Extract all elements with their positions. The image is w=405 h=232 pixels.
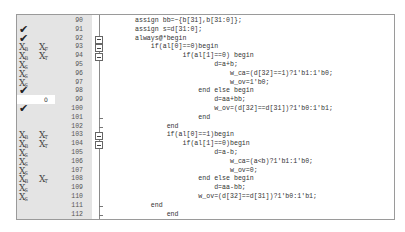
line-number: 111 bbox=[63, 202, 83, 211]
code-text[interactable]: end bbox=[135, 211, 179, 220]
line-number: 107 bbox=[63, 167, 83, 176]
fold-end-marker bbox=[99, 118, 103, 119]
line-number: 94 bbox=[63, 52, 83, 61]
code-text[interactable]: w_ov=(d[32]==d[31])?1'b0:1'b1; bbox=[135, 105, 333, 114]
hit-count-value: 0 bbox=[44, 95, 48, 104]
code-line[interactable]: XS110 w_ov=(d[32]==d[31])?1'b0:1'b1; bbox=[17, 193, 394, 202]
line-number: 102 bbox=[63, 123, 83, 132]
code-text[interactable]: end bbox=[135, 123, 179, 132]
code-line[interactable]: 101 end bbox=[17, 114, 394, 123]
code-text[interactable]: d=aa-bb; bbox=[135, 184, 246, 193]
fold-end-marker bbox=[99, 206, 103, 207]
code-line[interactable]: 099 d=aa+bb; bbox=[17, 96, 394, 105]
code-line[interactable]: XS107 w_ov=0; bbox=[17, 167, 394, 176]
code-line[interactable]: XBXF93 if(al[0]==0)begin bbox=[17, 43, 394, 52]
line-number: 110 bbox=[63, 193, 83, 202]
fold-toggle-icon[interactable] bbox=[95, 141, 103, 149]
uncovered-branch-icon: XT bbox=[39, 51, 53, 61]
fold-toggle-icon[interactable] bbox=[95, 44, 103, 52]
code-text[interactable]: d=a-b; bbox=[135, 149, 238, 158]
line-number: 103 bbox=[63, 131, 83, 140]
line-number: 112 bbox=[63, 211, 83, 220]
line-number: 90 bbox=[63, 17, 83, 26]
fold-toggle-icon[interactable] bbox=[95, 53, 103, 61]
code-editor[interactable]: 90assign bb=~{b[31],b[31:0]};✔91assign s… bbox=[16, 14, 395, 220]
fold-toggle-icon[interactable] bbox=[95, 132, 103, 140]
code-line[interactable]: XBXT94 if(al[1]==0) begin bbox=[17, 52, 394, 61]
code-line[interactable]: 102 end bbox=[17, 123, 394, 132]
line-number: 91 bbox=[63, 26, 83, 35]
code-line[interactable]: XBXT108 end else begin bbox=[17, 175, 394, 184]
code-line[interactable]: XS95 d=a+b; bbox=[17, 61, 394, 70]
line-number: 104 bbox=[63, 140, 83, 149]
code-line[interactable]: XS96 w_ca=(d[32]==1)?1'b1:1'b0; bbox=[17, 70, 394, 79]
code-line[interactable]: ✔100 w_ov=(d[32]==d[31])?1'b0:1'b1; bbox=[17, 105, 394, 114]
fold-end-marker bbox=[99, 215, 103, 216]
line-number: 105 bbox=[63, 149, 83, 158]
code-text[interactable]: if(al[1]==0)begin bbox=[135, 140, 250, 149]
code-line[interactable]: XS97 w_ov=1'b0; bbox=[17, 79, 394, 88]
code-text[interactable]: assign s=d[31:0]; bbox=[135, 26, 202, 35]
code-text[interactable]: end bbox=[135, 202, 163, 211]
fold-toggle-icon[interactable] bbox=[95, 36, 103, 44]
code-line[interactable]: XBXT103 if(al[0]==1)begin bbox=[17, 131, 394, 140]
code-line[interactable]: XBXT104 if(al[1]==0)begin bbox=[17, 140, 394, 149]
code-text[interactable]: if(al[0]==0)begin bbox=[135, 43, 218, 52]
uncovered-branch-icon: XT bbox=[39, 139, 53, 149]
code-text[interactable]: w_ca=(a<b)?1'b1:1'b0; bbox=[135, 158, 313, 167]
code-line[interactable]: ✔92always@*begin bbox=[17, 35, 394, 44]
line-number: 101 bbox=[63, 114, 83, 123]
uncovered-branch-icon: XS bbox=[19, 192, 33, 202]
code-text[interactable]: if(al[0]==1)begin bbox=[135, 131, 234, 140]
line-number: 98 bbox=[63, 87, 83, 96]
code-text[interactable]: w_ov=1'b0; bbox=[135, 79, 270, 88]
code-text[interactable]: d=aa+bb; bbox=[135, 96, 246, 105]
code-text[interactable]: always@*begin bbox=[135, 35, 186, 44]
code-line[interactable]: XS106 w_ca=(a<b)?1'b1:1'b0; bbox=[17, 158, 394, 167]
line-number: 96 bbox=[63, 70, 83, 79]
code-line[interactable]: 90assign bb=~{b[31],b[31:0]}; bbox=[17, 17, 394, 26]
code-text[interactable]: end bbox=[135, 114, 210, 123]
line-number: 100 bbox=[63, 105, 83, 114]
code-text[interactable]: assign bb=~{b[31],b[31:0]}; bbox=[135, 17, 242, 26]
code-line[interactable]: XS109 d=aa-bb; bbox=[17, 184, 394, 193]
code-line[interactable]: ✔98 end else begin bbox=[17, 87, 394, 96]
code-line[interactable]: XS105 d=a-b; bbox=[17, 149, 394, 158]
line-number: 93 bbox=[63, 43, 83, 52]
code-line[interactable]: ✔91assign s=d[31:0]; bbox=[17, 26, 394, 35]
code-line[interactable]: 112 end bbox=[17, 211, 394, 220]
code-text[interactable]: end else begin bbox=[135, 87, 254, 96]
line-number: 106 bbox=[63, 158, 83, 167]
line-number: 92 bbox=[63, 35, 83, 44]
line-number: 97 bbox=[63, 79, 83, 88]
line-number: 108 bbox=[63, 175, 83, 184]
covered-check-icon: ✔ bbox=[19, 104, 33, 114]
code-text[interactable]: if(al[1]==0) begin bbox=[135, 52, 254, 61]
line-number: 109 bbox=[63, 184, 83, 193]
line-number: 99 bbox=[63, 96, 83, 105]
code-text[interactable]: w_ov=(d[32]==d[31])?1'b0:1'b1; bbox=[135, 193, 317, 202]
line-number: 95 bbox=[63, 61, 83, 70]
code-text[interactable]: d=a+b; bbox=[135, 61, 238, 70]
code-text[interactable]: end else begin bbox=[135, 175, 254, 184]
uncovered-branch-icon: XT bbox=[39, 174, 53, 184]
code-line[interactable]: 111 end bbox=[17, 202, 394, 211]
code-text[interactable]: w_ov=0; bbox=[135, 167, 258, 176]
fold-end-marker bbox=[99, 127, 103, 128]
code-text[interactable]: w_ca=(d[32]==1)?1'b1:1'b0; bbox=[135, 70, 333, 79]
